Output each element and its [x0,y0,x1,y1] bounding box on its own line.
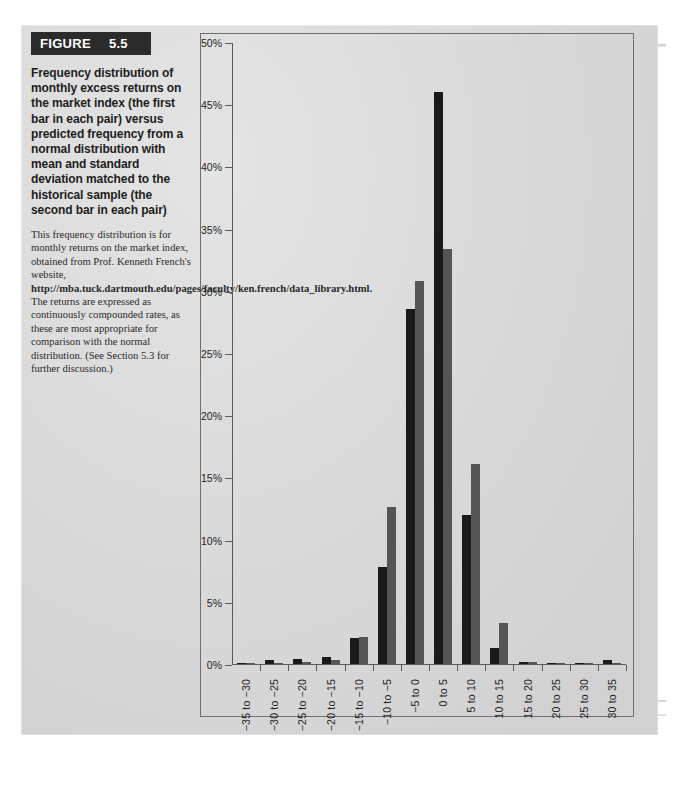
bar-historical [547,663,556,664]
bar-normal [246,663,255,664]
figure-title: Frequency distribution of monthly excess… [31,66,191,218]
figure-tag-number: 5.5 [109,36,128,51]
y-axis-label: 35% [201,224,222,236]
x-axis-label: −10 to −5 [381,679,393,725]
x-axis-tick [345,665,346,671]
bar-group [377,507,397,664]
x-axis-tick [457,665,458,671]
y-axis-tick [225,416,232,417]
x-axis-label: 25 to 30 [578,679,590,719]
x-axis-label: −15 to −10 [353,679,365,731]
y-axis-tick [225,665,232,666]
bar-normal [415,281,424,664]
bar-group [349,637,369,664]
bar-normal [612,663,621,664]
bar-historical [462,515,471,664]
figure-caption-text-after: The returns are expressed as continuousl… [31,296,180,374]
x-axis-label: −35 to −30 [240,679,252,731]
x-axis-label: 30 to 35 [606,679,618,719]
x-axis-tick [626,665,627,671]
x-axis-tick [260,665,261,671]
y-axis-tick [225,167,232,168]
x-axis-label: −5 to 0 [409,679,421,713]
bar-chart-plot-area: 0%5%10%15%20%25%30%35%40%45%50%−35 to −3… [232,43,626,665]
bar-group [433,92,453,664]
x-axis-label: −20 to −15 [325,679,337,731]
figure-tag-word: FIGURE [40,36,91,51]
bar-historical [406,309,415,664]
x-axis-tick [316,665,317,671]
x-axis-tick [288,665,289,671]
y-axis-label: 10% [201,535,222,547]
bar-historical [293,659,302,664]
bar-historical [237,663,246,664]
bar-historical [322,657,331,664]
y-axis-tick [225,541,232,542]
y-axis-label: 5% [207,597,222,609]
bar-historical [519,662,528,664]
y-axis-label: 45% [201,99,222,111]
y-axis-tick [225,354,232,355]
x-axis-label: −30 to −25 [268,679,280,731]
bar-group [461,464,481,664]
x-axis-label: 0 to 5 [437,679,449,706]
bar-group [489,623,509,664]
x-axis-label: −25 to −20 [296,679,308,731]
bar-group [518,662,538,664]
y-axis-label: 20% [201,410,222,422]
bar-historical [490,648,499,664]
bar-historical [378,567,387,664]
x-axis-tick [373,665,374,671]
bar-normal [302,662,311,664]
figure-caption: This frequency distribution is for month… [31,228,191,375]
y-axis-label: 25% [201,348,222,360]
bar-group [321,657,341,664]
bar-normal [528,662,537,664]
x-axis-tick [598,665,599,671]
bar-historical [265,660,274,664]
bar-group [574,663,594,664]
bar-normal [274,663,283,664]
y-axis-label: 40% [201,161,222,173]
bar-normal [471,464,480,664]
x-axis-tick [513,665,514,671]
bar-historical [575,663,584,664]
bar-historical [603,660,612,664]
bar-group [546,663,566,664]
bar-normal [359,637,368,664]
bar-historical [350,638,359,664]
y-axis-tick [225,230,232,231]
x-axis-tick [401,665,402,671]
y-axis-label: 15% [201,472,222,484]
bar-normal [387,507,396,664]
bar-normal [443,249,452,664]
x-axis-label: 5 to 10 [465,679,477,713]
x-axis-label: 10 to 15 [493,679,505,719]
bar-normal [556,663,565,664]
y-axis-label: 0% [207,659,222,671]
y-axis-tick [225,603,232,604]
y-axis-line [232,43,233,665]
y-axis-tick [225,105,232,106]
y-axis-tick [225,292,232,293]
figure-text-column: FIGURE 5.5 Frequency distribution of mon… [31,32,191,376]
x-axis-tick [542,665,543,671]
bar-group [264,660,284,664]
bar-group [405,281,425,664]
x-axis-tick [570,665,571,671]
y-axis-tick [225,43,232,44]
figure-tag: FIGURE 5.5 [31,32,151,55]
x-axis-tick [429,665,430,671]
bar-group [602,660,622,664]
bar-normal [331,660,340,664]
bar-group [236,663,256,664]
figure-caption-text-before: This frequency distribution is for month… [31,229,191,280]
y-axis-label: 50% [201,37,222,49]
bar-normal [584,663,593,664]
x-axis-label: 20 to 25 [550,679,562,719]
bar-historical [434,92,443,664]
bar-group [292,659,312,664]
x-axis-label: 15 to 20 [522,679,534,719]
y-axis-tick [225,478,232,479]
x-axis-tick [485,665,486,671]
